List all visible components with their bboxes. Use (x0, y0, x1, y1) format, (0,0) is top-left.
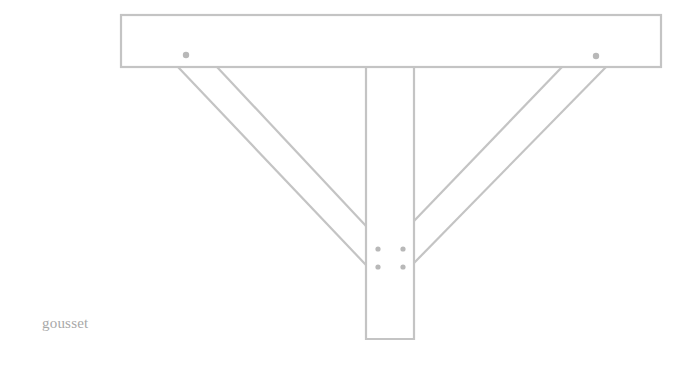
bolt-dot (183, 52, 189, 58)
left-brace (178, 67, 366, 265)
bolt-dot (593, 53, 599, 59)
bolt-dot (400, 246, 405, 251)
bolt-dot (375, 246, 380, 251)
bolt-dot (375, 264, 380, 269)
diagram-caption: gousset (42, 315, 88, 332)
post (366, 67, 414, 339)
bolt-dot (400, 264, 405, 269)
beam (121, 15, 661, 67)
right-brace (414, 67, 606, 263)
gusset-diagram (0, 0, 697, 377)
